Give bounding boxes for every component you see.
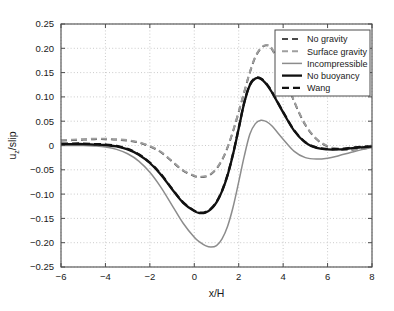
legend-label-4: Wang <box>307 83 330 93</box>
y-tick-label: −0.25 <box>30 261 54 272</box>
y-tick-labels: −0.25−0.20−0.15−0.10−0.0500.050.100.150.… <box>30 18 54 272</box>
x-tick-label: 2 <box>236 271 241 282</box>
x-tick-label: 0 <box>192 271 197 282</box>
chart-figure: −6−4−202468−0.25−0.20−0.15−0.10−0.0500.0… <box>0 0 394 311</box>
legend-label-2: Incompressible <box>307 59 368 69</box>
x-tick-label: −6 <box>56 271 67 282</box>
x-tick-label: 8 <box>369 271 374 282</box>
line-chart: −6−4−202468−0.25−0.20−0.15−0.10−0.0500.0… <box>0 0 394 311</box>
y-tick-label: −0.10 <box>30 189 54 200</box>
y-tick-label: 0 <box>49 140 54 151</box>
y-tick-label: −0.20 <box>30 237 54 248</box>
legend: No gravitySurface gravityIncompressibleN… <box>275 30 370 96</box>
y-tick-label: 0.15 <box>36 67 55 78</box>
y-axis-title: uz/slip <box>6 131 20 159</box>
x-tick-labels: −6−4−202468 <box>56 271 375 282</box>
x-tick-label: −4 <box>100 271 111 282</box>
x-tick-label: 6 <box>325 271 330 282</box>
y-tick-label: 0.20 <box>36 43 55 54</box>
x-axis-title: x/H <box>209 287 225 299</box>
legend-label-1: Surface gravity <box>307 47 368 57</box>
legend-label-0: No gravity <box>307 34 348 44</box>
y-tick-label: 0.25 <box>36 18 55 29</box>
y-tick-label: 0.10 <box>36 91 55 102</box>
legend-label-3: No buoyancy <box>307 71 360 81</box>
x-tick-label: 4 <box>280 271 285 282</box>
svg-text:uz/slip: uz/slip <box>6 131 20 159</box>
y-tick-label: 0.05 <box>36 116 55 127</box>
y-tick-label: −0.05 <box>30 164 54 175</box>
series-line-2 <box>61 120 372 247</box>
x-tick-label: −2 <box>144 271 155 282</box>
y-tick-label: −0.15 <box>30 213 54 224</box>
